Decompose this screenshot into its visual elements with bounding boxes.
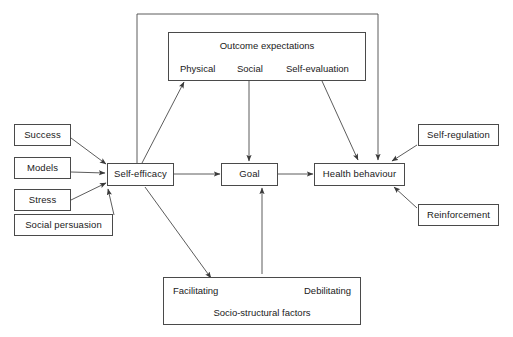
node-self-efficacy[interactable]: Self-efficacy — [107, 163, 174, 186]
edge-self-efficacy-to-outcome-expectations — [142, 82, 184, 163]
outcome-expectations-social: Social — [237, 63, 263, 74]
node-self-regulation-label: Self-regulation — [427, 130, 490, 141]
edge-self-evaluation-to-health-behaviour — [322, 81, 358, 160]
node-socio-structural-factors[interactable]: Facilitating Debilitating Socio-structur… — [163, 277, 361, 325]
social-cognitive-theory-diagram: Success Models Stress Social persuasion … — [0, 0, 513, 337]
node-social-persuasion-label: Social persuasion — [25, 220, 102, 231]
socio-structural-facilitating: Facilitating — [173, 285, 218, 296]
node-success[interactable]: Success — [14, 124, 71, 146]
edge-models-to-self-efficacy — [71, 172, 105, 173]
node-stress[interactable]: Stress — [14, 189, 71, 211]
node-reinforcement-label: Reinforcement — [427, 210, 490, 221]
node-health-behaviour[interactable]: Health behaviour — [314, 163, 405, 186]
edge-self-regulation-to-health-behaviour — [392, 145, 417, 161]
edge-success-to-self-efficacy — [71, 138, 106, 164]
node-success-label: Success — [24, 130, 61, 141]
edge-stress-to-self-efficacy — [71, 183, 106, 200]
node-models-label: Models — [27, 163, 58, 174]
node-stress-label: Stress — [29, 195, 57, 206]
node-outcome-expectations[interactable]: Outcome expectations Physical Social Sel… — [168, 32, 366, 81]
outcome-expectations-title: Outcome expectations — [169, 40, 365, 51]
node-self-regulation[interactable]: Self-regulation — [418, 124, 499, 146]
node-health-behaviour-label: Health behaviour — [323, 169, 396, 180]
outcome-expectations-self-evaluation: Self-evaluation — [286, 63, 349, 74]
node-self-efficacy-label: Self-efficacy — [114, 169, 167, 180]
edge-reinforcement-to-health-behaviour — [394, 187, 417, 208]
outcome-expectations-physical: Physical — [180, 63, 215, 74]
node-goal-label: Goal — [239, 169, 259, 180]
node-goal[interactable]: Goal — [221, 163, 278, 186]
edge-self-efficacy-to-socio-structural — [145, 187, 211, 278]
socio-structural-debilitating: Debilitating — [304, 285, 351, 296]
node-reinforcement[interactable]: Reinforcement — [418, 204, 499, 226]
node-social-persuasion[interactable]: Social persuasion — [14, 214, 113, 236]
node-models[interactable]: Models — [14, 157, 71, 179]
edge-social-persuasion-to-self-efficacy — [108, 189, 114, 215]
socio-structural-title: Socio-structural factors — [164, 307, 360, 318]
